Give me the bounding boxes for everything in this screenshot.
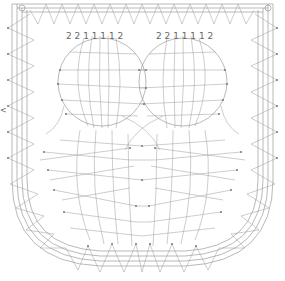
top-zigzag: [30, 4, 254, 24]
left-marker: <: [0, 106, 7, 115]
left-circle: [46, 36, 160, 150]
border-rails: [12, 4, 273, 266]
right-circle: [125, 36, 239, 150]
left-circle-labels: 2 2 1 1 1 1 2: [66, 31, 123, 41]
lace-pricking-diagram: 2 2 1 1 1 1 2 2 2 1 1 1 1 2 <: [0, 0, 285, 281]
pins: [7, 27, 278, 247]
body-ground: [40, 130, 245, 246]
bottom-zigzag: [66, 244, 219, 272]
right-circle-labels: 2 2 1 1 1 1 2: [156, 31, 213, 41]
